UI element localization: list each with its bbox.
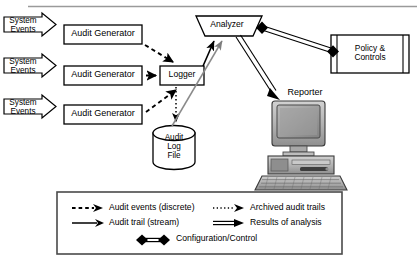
policy-controls-shape	[331, 35, 409, 73]
system-events-shape-1	[4, 13, 56, 36]
reporter-workstation-icon	[255, 101, 347, 190]
audit-generator-box-1	[64, 25, 142, 44]
edge-gen1-to-logger	[145, 45, 173, 62]
diagram-svg	[0, 0, 417, 267]
system-events-shape-3	[4, 95, 56, 118]
audit-generator-box-2	[64, 66, 142, 85]
edge-analyzer-to-reporter	[236, 35, 280, 100]
system-events-shape-2	[4, 54, 56, 77]
diagram-canvas: System Events System Events System Event…	[0, 0, 417, 267]
edge-logger-to-analyzer	[203, 41, 214, 66]
audit-log-file-cylinder	[153, 126, 195, 170]
edge-analyzer-policy-controls	[256, 22, 339, 58]
analyzer-shape	[196, 16, 262, 36]
audit-generator-box-3	[64, 105, 142, 124]
edge-gen3-to-logger	[146, 90, 176, 112]
